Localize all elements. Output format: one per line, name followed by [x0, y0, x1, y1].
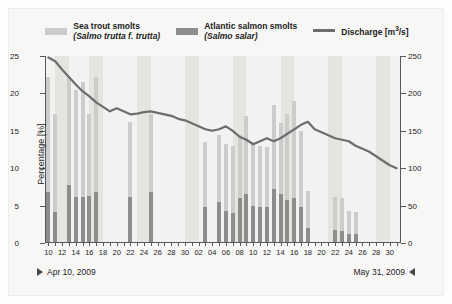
y-axis-left-tick — [40, 56, 45, 57]
x-axis-tick — [110, 243, 111, 246]
y-axis-left-tick-label: 15 — [0, 126, 19, 135]
footer-end-date-label: May 31, 2009 — [353, 267, 405, 277]
y-axis-right-tick-label: 150 — [408, 126, 448, 135]
legend-item-sea-trout: Sea trout smolts (Salmo trutta f. trutta… — [45, 21, 160, 42]
x-axis-tick — [171, 243, 172, 246]
x-axis-tick — [178, 243, 179, 246]
legend-label-discharge-post: /s] — [399, 27, 409, 37]
footer-start-date: Apr 10, 2009 — [37, 267, 96, 277]
x-axis-tick — [335, 243, 336, 246]
discharge-line — [48, 58, 396, 169]
y-axis-right-tick-label: 50 — [408, 201, 448, 210]
y-axis-right-tick — [401, 93, 406, 94]
x-axis-tick — [390, 243, 391, 246]
y-axis-right-tick-label: 200 — [408, 89, 448, 98]
x-axis-tick — [55, 243, 56, 246]
x-axis-tick — [226, 243, 227, 246]
y-axis-left-tick — [40, 243, 45, 244]
x-axis-tick — [274, 243, 275, 246]
legend-item-discharge: Discharge [m3/s] — [313, 24, 408, 37]
x-axis-tick — [253, 243, 254, 246]
x-axis-tick — [158, 243, 159, 246]
x-axis-tick — [151, 243, 152, 246]
legend-label-sea-trout: Sea trout smolts (Salmo trutta f. trutta… — [73, 21, 160, 42]
chart-figure-inner: Sea trout smolts (Salmo trutta f. trutta… — [8, 8, 444, 296]
x-axis-tick — [233, 243, 234, 246]
x-axis-tick — [192, 243, 193, 246]
x-axis-tick — [308, 243, 309, 246]
legend-label-sea-trout-scientific: (Salmo trutta f. trutta) — [73, 31, 160, 42]
plot-canvas — [45, 56, 400, 243]
x-axis-tick — [281, 243, 282, 246]
x-axis-tick — [144, 243, 145, 246]
x-axis-tick — [328, 243, 329, 246]
x-axis-tick — [287, 243, 288, 246]
discharge-line-svg — [45, 56, 400, 243]
x-axis-tick — [76, 243, 77, 246]
x-axis-tick — [246, 243, 247, 246]
chart-legend: Sea trout smolts (Salmo trutta f. trutta… — [9, 15, 445, 47]
x-axis-tick — [96, 243, 97, 246]
x-axis-tick — [342, 243, 343, 246]
legend-label-atlantic-salmon-scientific: (Salmo salar) — [204, 31, 297, 42]
y-axis-right-tick — [401, 56, 406, 57]
legend-label-discharge-pre: Discharge [m — [341, 27, 395, 37]
y-axis-right-line — [400, 56, 401, 243]
plot-area — [45, 56, 400, 243]
x-axis-tick — [301, 243, 302, 246]
x-axis-tick — [48, 243, 49, 246]
triangle-right-icon — [37, 268, 43, 276]
x-axis-tick — [267, 243, 268, 246]
x-axis-tick — [349, 243, 350, 246]
x-axis-tick — [219, 243, 220, 246]
y-axis-right-tick — [401, 131, 406, 132]
x-axis-tick — [240, 243, 241, 246]
x-axis-tick — [89, 243, 90, 246]
x-axis-tick — [369, 243, 370, 246]
y-axis-right-tick — [401, 206, 406, 207]
legend-item-atlantic-salmon: Atlantic salmon smolts (Salmo salar) — [176, 21, 297, 42]
x-axis-tick — [397, 243, 398, 246]
y-axis-left-tick-label: 25 — [0, 52, 19, 61]
x-axis-tick — [294, 243, 295, 246]
x-axis-tick — [315, 243, 316, 246]
x-axis-tick-label: 30 — [382, 248, 398, 257]
x-axis-tick — [130, 243, 131, 246]
legend-label-atlantic-salmon: Atlantic salmon smolts (Salmo salar) — [204, 21, 297, 42]
x-axis-tick — [83, 243, 84, 246]
y-axis-left-tick-label: 10 — [0, 164, 19, 173]
x-axis-line — [45, 242, 401, 243]
legend-swatch-atlantic-salmon — [176, 28, 198, 35]
y-axis-right-tick — [401, 243, 406, 244]
x-axis-tick — [103, 243, 104, 246]
legend-swatch-sea-trout — [45, 28, 67, 35]
y-axis-right-tick-label: 0 — [408, 239, 448, 248]
legend-label-sea-trout-common: Sea trout smolts — [73, 21, 140, 31]
x-axis-tick — [199, 243, 200, 246]
x-axis-tick — [376, 243, 377, 246]
x-axis-tick — [69, 243, 70, 246]
footer-end-date: May 31, 2009 — [353, 267, 415, 277]
triangle-left-icon — [409, 268, 415, 276]
x-axis-tick — [124, 243, 125, 246]
y-axis-right-tick-label: 100 — [408, 164, 448, 173]
x-axis-tick — [205, 243, 206, 246]
x-axis-tick — [185, 243, 186, 246]
x-axis-tick — [137, 243, 138, 246]
x-axis-tick — [117, 243, 118, 246]
y-axis-right-tick-label: 250 — [408, 52, 448, 61]
y-axis-left-title: Percentage [%] — [36, 94, 46, 214]
x-axis-tick — [383, 243, 384, 246]
x-axis-tick — [362, 243, 363, 246]
y-axis-left-tick-label: 0 — [0, 239, 19, 248]
x-axis-tick — [212, 243, 213, 246]
legend-line-discharge — [313, 29, 335, 32]
legend-label-atlantic-salmon-common: Atlantic salmon smolts — [204, 21, 297, 31]
x-axis-tick — [164, 243, 165, 246]
y-axis-right-tick — [401, 168, 406, 169]
legend-label-discharge: Discharge [m3/s] — [341, 24, 408, 37]
y-axis-left-tick-label: 20 — [0, 89, 19, 98]
footer-start-date-label: Apr 10, 2009 — [47, 267, 96, 277]
x-axis-tick — [260, 243, 261, 246]
x-axis-tick — [321, 243, 322, 246]
